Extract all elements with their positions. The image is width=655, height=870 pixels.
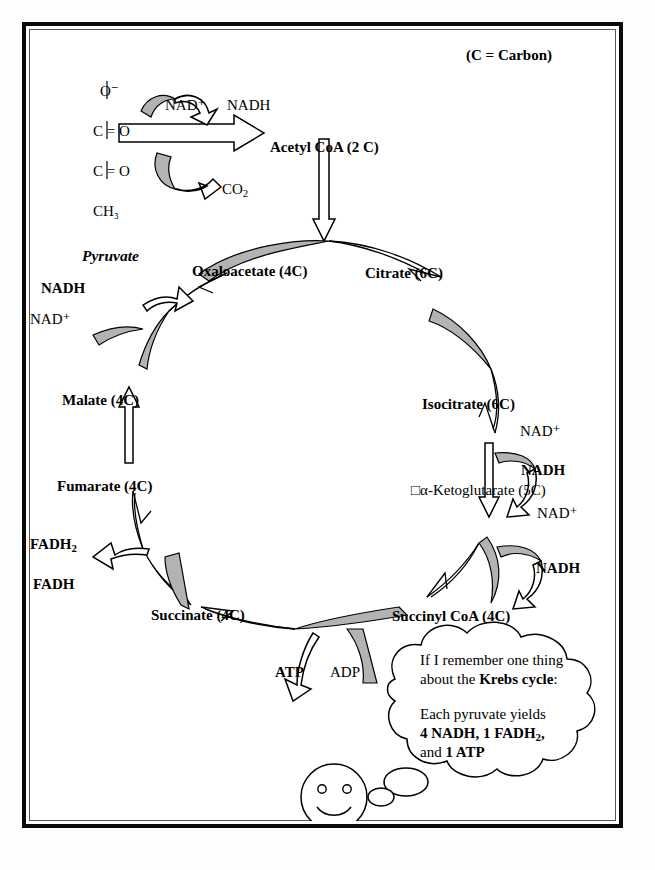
label-fumarate: Fumarate (4C) [57, 479, 152, 495]
isocitrate-nadh-label: NADH [521, 463, 565, 479]
pyruvate-label: Pyruvate [82, 248, 139, 264]
malate-nad-plus-label: NAD⁺ [30, 312, 70, 328]
acetyl-coa-label: Acetyl CoA (2 C) [270, 140, 379, 156]
pyruvate-atom-1: C = O [93, 124, 130, 140]
atp-label: ATP [275, 665, 304, 681]
co2-label: CO2 [222, 182, 248, 199]
arrow-ketoglutarate-to-succinylcoa [427, 537, 499, 603]
ketoglutarate-nad-nadh-curve [497, 546, 542, 609]
adp-label: ADP [330, 665, 360, 681]
co2-release-curve [155, 153, 221, 199]
label-alpha-ketoglutarate: □α-Ketoglutarate (5C) [411, 483, 546, 499]
fadh-label: FADH [33, 577, 74, 593]
arrow-citrate-to-isocitrate [429, 309, 498, 433]
fad-fadh2-curve [93, 543, 189, 609]
ketoglutarate-nad-plus-label: NAD⁺ [537, 506, 577, 522]
bubble-line-2: about the Krebs cycle: [420, 672, 558, 688]
malate-nadh-label: NADH [41, 281, 85, 297]
arrow-malate-to-oxaloacetate [139, 273, 227, 369]
bubble-line-1: If I remember one thing [420, 653, 563, 669]
bubble-line-2-plain: about the [420, 671, 479, 687]
bubble-line-5-bold: 1 ATP [445, 744, 484, 760]
ketoglutarate-nadh-label: NADH [536, 561, 580, 577]
pyruvate-atom-0: O⁻ [100, 84, 119, 100]
smiley-face [301, 764, 367, 821]
co2-text: CO [222, 181, 243, 197]
bubble-line-3: Each pyruvate yields [420, 707, 546, 723]
bubble-line-4-text: 4 NADH, 1 FADH [420, 725, 536, 741]
thought-bubble-tail [368, 768, 428, 806]
label-isocitrate: Isocitrate (6C) [422, 397, 515, 413]
label-oxaloacetate: Oxaloacetate (4C) [192, 264, 307, 280]
bubble-line-5-plain: and [420, 744, 445, 760]
isocitrate-nad-plus-label: NAD⁺ [520, 424, 560, 440]
bubble-line-5: and 1 ATP [420, 745, 485, 761]
pyruvate-to-acetylcoa-arrow [119, 115, 264, 151]
label-citrate: Citrate (6C) [365, 266, 443, 282]
fadh2-label: FADH2 [30, 537, 77, 554]
bubble-line-2-tail: : [553, 671, 557, 687]
fadh2-subscript: 2 [71, 542, 76, 554]
pdh-nadh-label: NADH [227, 98, 270, 114]
pyruvate-atom-3: CH₃ [93, 204, 119, 220]
legend-note: (C = Carbon) [466, 48, 552, 64]
pdh-nad-plus-label: NAD⁺ [165, 98, 205, 114]
co2-subscript: 2 [243, 187, 248, 199]
pyruvate-atom-2: C = O [93, 164, 130, 180]
thought-bubble-shape [388, 622, 595, 777]
malate-nad-nadh-curve [93, 287, 193, 345]
bubble-line-4: 4 NADH, 1 FADH2, [420, 726, 545, 743]
label-malate: Malate (4C) [62, 393, 139, 409]
fadh2-text: FADH [30, 536, 71, 552]
bubble-line-4-comma: , [541, 725, 545, 741]
figure-page: .ln { fill:none; stroke:#000; stroke-wid… [0, 0, 655, 870]
label-succinate: Succinate (4C) [151, 608, 245, 624]
label-succinyl-coa: Succinyl CoA (4C) [392, 609, 510, 625]
bubble-line-2-bold: Krebs cycle [479, 671, 553, 687]
